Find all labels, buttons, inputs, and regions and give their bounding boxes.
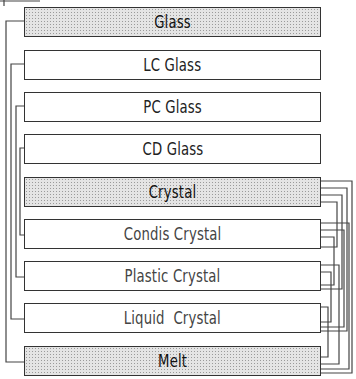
phase-box-crystal: Crystal <box>24 177 321 207</box>
phase-box-lc-glass: LC Glass <box>24 50 321 80</box>
phase-label: Crystal <box>149 182 197 202</box>
connector-condis-liquid <box>321 230 344 327</box>
connector-plastic-liquid <box>321 272 331 322</box>
phase-box-plastic-crystal: Plastic Crystal <box>24 261 321 291</box>
phase-label: Condis Crystal <box>124 224 222 244</box>
phase-label: CD Glass <box>142 139 203 159</box>
connector-glass-melt <box>6 21 24 362</box>
connector-plastic-melt <box>321 265 339 364</box>
phase-box-melt: Melt <box>24 346 321 376</box>
connector-condis-melt <box>321 223 349 369</box>
phase-box-liquid-crystal: Liquid Crystal <box>24 303 321 333</box>
phase-box-pc-glass: PC Glass <box>24 92 321 122</box>
phase-box-glass: Glass <box>24 7 321 37</box>
phase-label: Glass <box>154 12 191 32</box>
phase-label: LC Glass <box>143 55 201 75</box>
connector-lcglass-liquidcrystal <box>11 64 24 319</box>
phase-label: Plastic Crystal <box>125 266 221 286</box>
phase-label: Melt <box>158 351 187 371</box>
phase-label: Liquid Crystal <box>124 308 221 328</box>
connector-liquid-melt <box>321 307 328 357</box>
phase-label: PC Glass <box>143 97 202 117</box>
phase-box-condis-crystal: Condis Crystal <box>24 219 321 249</box>
phase-box-cd-glass: CD Glass <box>24 134 321 164</box>
connector-condis-plastic <box>321 237 334 285</box>
